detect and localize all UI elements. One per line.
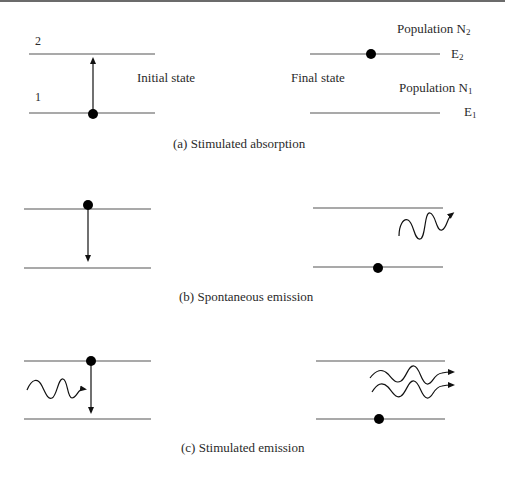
photon-wave-icon xyxy=(399,213,452,239)
caption-a: (a) Stimulated absorption xyxy=(173,136,305,152)
panel-a-initial xyxy=(29,54,155,119)
panel-c-final xyxy=(316,361,452,424)
electron-dot-icon xyxy=(366,49,376,59)
caption-c: (c) Stimulated emission xyxy=(181,440,304,456)
electron-dot-icon xyxy=(88,109,98,119)
panel-b-initial xyxy=(24,200,151,268)
final-state-label: Final state xyxy=(291,70,345,86)
electron-dot-icon xyxy=(86,356,96,366)
population-n2-label: Population N2 xyxy=(397,21,470,37)
energy-level-diagram xyxy=(0,0,505,477)
electron-dot-icon xyxy=(374,414,384,424)
level-1-label: 1 xyxy=(35,90,41,105)
panel-c-initial xyxy=(24,356,151,419)
incident-photon-icon xyxy=(27,379,84,398)
electron-dot-icon xyxy=(83,200,93,210)
caption-b: (b) Spontaneous emission xyxy=(179,289,313,305)
energy-e1-label: E1 xyxy=(464,104,476,120)
energy-e2-label: E2 xyxy=(451,46,463,62)
electron-dot-icon xyxy=(373,263,383,273)
stimulated-photon-icon xyxy=(372,381,452,398)
panel-b-final xyxy=(313,208,452,273)
population-n1-label: Population N1 xyxy=(399,80,472,96)
level-2-label: 2 xyxy=(35,34,41,49)
initial-state-label: Initial state xyxy=(137,70,195,86)
